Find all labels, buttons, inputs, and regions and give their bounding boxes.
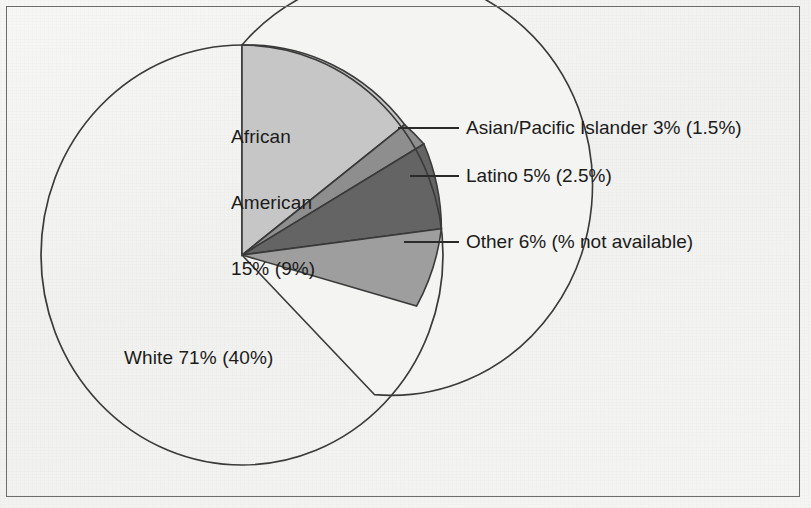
slice-label-other: Other 6% (% not available) <box>466 231 693 253</box>
slice-label-african-american-line2: American <box>231 192 315 214</box>
slice-label-african-american-line1: African <box>231 126 315 148</box>
slice-label-african-american-line3: 15% (9%) <box>231 258 315 280</box>
slice-label-african-american: African American 15% (9%) <box>231 82 315 324</box>
slice-label-white: White 71% (40%) <box>124 347 273 369</box>
pie-chart-figure: African American 15% (9%) White 71% (40%… <box>0 0 811 508</box>
pie-chart-canvas <box>0 0 811 508</box>
slice-label-latino: Latino 5% (2.5%) <box>466 165 612 187</box>
slice-label-asian-pacific-islander: Asian/Pacific Islander 3% (1.5%) <box>466 117 742 139</box>
